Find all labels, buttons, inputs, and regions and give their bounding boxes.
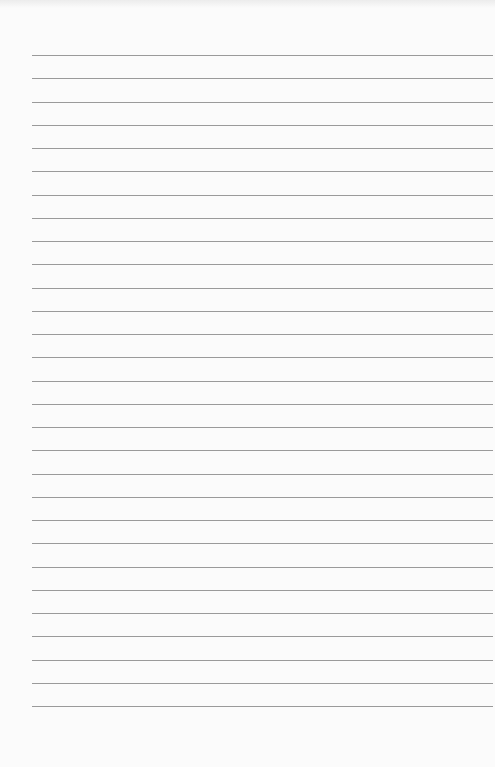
ruled-line (32, 474, 493, 475)
ruled-line (32, 357, 493, 358)
ruled-line (32, 334, 493, 335)
ruled-line (32, 567, 493, 568)
ruled-line (32, 148, 493, 149)
ruled-line (32, 450, 493, 451)
ruled-line (32, 125, 493, 126)
ruled-line (32, 427, 493, 428)
ruled-line (32, 683, 493, 684)
ruled-line (32, 218, 493, 219)
ruled-line (32, 311, 493, 312)
ruled-line (32, 660, 493, 661)
ruled-line (32, 171, 493, 172)
ruled-line (32, 195, 493, 196)
ruled-line (32, 288, 493, 289)
ruled-line (32, 497, 493, 498)
ruled-line (32, 590, 493, 591)
ruled-line (32, 613, 493, 614)
ruled-line (32, 543, 493, 544)
ruled-line (32, 241, 493, 242)
ruled-line (32, 706, 493, 707)
ruled-line (32, 102, 493, 103)
ruled-line (32, 381, 493, 382)
ruled-line (32, 404, 493, 405)
ruled-line (32, 78, 493, 79)
ruled-line (32, 55, 493, 56)
lined-paper-sheet (0, 0, 495, 767)
ruled-line (32, 636, 493, 637)
ruled-line (32, 264, 493, 265)
ruled-line (32, 520, 493, 521)
